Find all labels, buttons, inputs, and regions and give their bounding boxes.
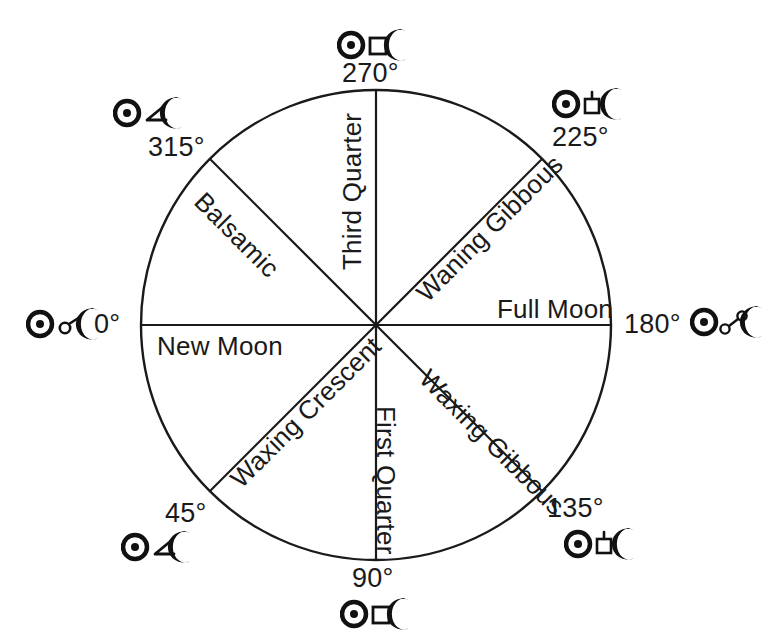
- degree-marker-90: 90°: [352, 565, 393, 592]
- sun-opposition-moon-glyph: [690, 305, 773, 339]
- sector-label-third-quarter: Third Quarter: [339, 113, 365, 270]
- sun-semisquare-moon-glyph-315: [113, 96, 208, 130]
- degree-marker-45: 45°: [165, 500, 206, 527]
- sun-semisquare-moon-glyph: [121, 530, 216, 564]
- degree-marker-180: 180°: [624, 311, 681, 338]
- degree-marker-135: 135°: [547, 495, 604, 522]
- sun-sesquiquadrate-moon-glyph-225: [552, 87, 650, 121]
- sector-label-full-moon: Full Moon: [497, 296, 613, 322]
- degree-marker-0: 0°: [94, 311, 120, 338]
- degree-marker-270: 270°: [342, 60, 399, 87]
- sun-sesquiquadrate-moon-glyph: [564, 527, 662, 561]
- sun-square-moon-glyph-270: [337, 28, 432, 62]
- sector-label-new-moon: New Moon: [157, 333, 283, 359]
- sector-label-first-quarter: First Quarter: [373, 406, 399, 555]
- degree-marker-225: 225°: [552, 124, 609, 151]
- degree-marker-315: 315°: [148, 134, 205, 161]
- sun-square-moon-glyph: [340, 597, 435, 631]
